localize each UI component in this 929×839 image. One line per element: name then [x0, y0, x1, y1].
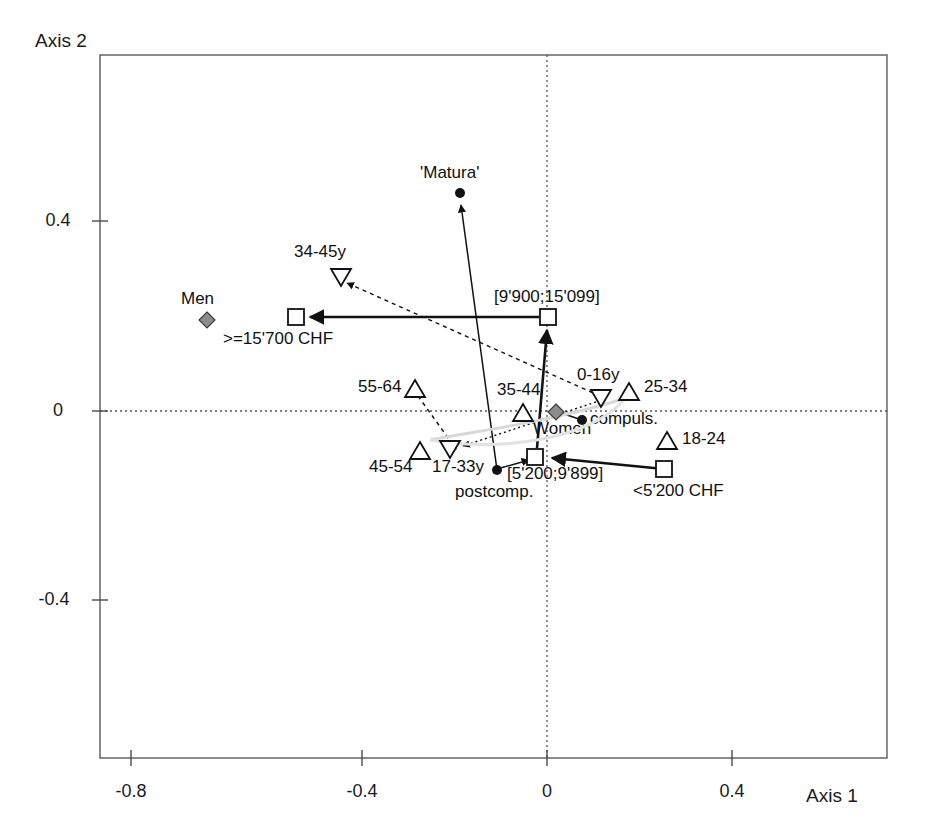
marker-age-45-54 — [410, 442, 430, 459]
marker-matura — [455, 188, 465, 198]
marker-income-low — [656, 461, 672, 477]
marker-men — [199, 312, 215, 328]
marker-age-55-64 — [405, 380, 425, 397]
marker-income-upper-mid — [540, 309, 556, 325]
correspondence-analysis-figure: Axis 2 Axis 1 0.4 0 -0.4 -0.8 -0.4 0 0.4… — [0, 0, 929, 839]
plot-canvas — [0, 0, 929, 839]
age-trajectory — [347, 283, 600, 449]
marker-age-35-44 — [513, 404, 533, 421]
marker-age-18-24 — [657, 432, 677, 449]
marker-age-17-33y — [440, 441, 460, 458]
marker-income-high — [288, 309, 304, 325]
marker-income-lower-mid — [527, 449, 543, 465]
marker-compuls — [577, 415, 587, 425]
plot-frame — [100, 55, 887, 758]
marker-postcomp — [492, 465, 502, 475]
marker-age-25-34 — [619, 383, 639, 400]
